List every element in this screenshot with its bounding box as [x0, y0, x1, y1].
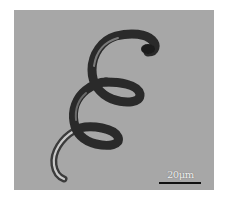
scale-bar [159, 182, 201, 184]
scale-bar-label: 20μm [167, 169, 194, 180]
helix-structure [14, 10, 214, 190]
micrograph-image [14, 10, 214, 190]
